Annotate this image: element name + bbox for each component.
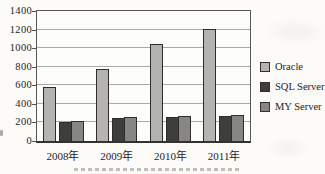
bar-oracle-2009年	[96, 69, 109, 141]
y-axis-tick-400	[32, 104, 36, 105]
x-axis-label-2009年: 2009年	[90, 147, 144, 163]
y-axis-label-0: 0	[2, 136, 32, 146]
y-axis-tick-600	[32, 85, 36, 86]
bar-my-server-2010年	[178, 116, 191, 141]
bar-oracle-2008年	[43, 87, 56, 141]
y-axis-label-800: 800	[2, 62, 32, 72]
bar-my-server-2011年	[231, 115, 244, 142]
y-axis-label-400: 400	[2, 99, 32, 109]
legend-entry-oracle: Oracle	[260, 61, 324, 72]
bar-group-2008年	[37, 87, 90, 141]
bar-my-server-2008年	[71, 121, 84, 141]
y-axis-tick-1000	[32, 48, 36, 49]
bar-group-2009年	[90, 69, 143, 141]
bar-oracle-2011年	[203, 29, 216, 141]
y-axis-tick-1400	[32, 11, 36, 12]
bar-group-2011年	[197, 29, 250, 141]
cut-off-caption	[74, 168, 242, 171]
y-axis-label-1400: 1400	[2, 6, 32, 16]
legend-swatch-my-server	[260, 102, 270, 112]
scanned-bar-chart-figure: 0200400600800100012001400 2008年2009年2010…	[0, 0, 325, 174]
legend-label-oracle: Oracle	[275, 61, 303, 72]
bar-group-2010年	[144, 44, 197, 141]
y-axis-tick-0	[32, 141, 36, 142]
legend-entry-my-server: MY Server	[260, 101, 324, 112]
y-axis-tick-800	[32, 67, 36, 68]
x-axis-label-2008年: 2008年	[36, 147, 90, 163]
x-axis-label-2011年: 2011年	[197, 147, 251, 163]
plot-area	[36, 10, 251, 143]
bar-oracle-2010年	[150, 44, 163, 141]
legend-swatch-oracle	[260, 62, 270, 72]
x-axis-label-2010年: 2010年	[144, 147, 198, 163]
y-axis-label-600: 600	[2, 80, 32, 90]
legend-swatch-sql-server	[260, 82, 270, 92]
y-axis-label-1200: 1200	[2, 25, 32, 35]
legend: OracleSQL ServerMY Server	[260, 61, 324, 121]
y-axis-tick-1200	[32, 30, 36, 31]
legend-label-my-server: MY Server	[275, 101, 322, 112]
y-axis-label-1000: 1000	[2, 43, 32, 53]
x-axis-labels: 2008年2009年2010年2011年	[36, 147, 251, 163]
y-axis-label-200: 200	[2, 117, 32, 127]
y-axis-tick-200	[32, 122, 36, 123]
legend-label-sql-server: SQL Server	[275, 81, 324, 92]
bar-groups	[37, 11, 250, 141]
scan-speck	[0, 130, 3, 136]
legend-entry-sql-server: SQL Server	[260, 81, 324, 92]
bar-my-server-2009年	[124, 117, 137, 141]
